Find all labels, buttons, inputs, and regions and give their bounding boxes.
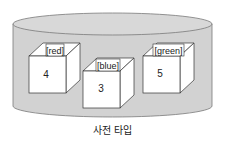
cube-key-label: [green] (154, 46, 182, 56)
dictionary-diagram: [red] 4 [blue] 3 [green] 5 (0, 0, 225, 141)
diagram-caption: 사전 타입 (0, 122, 225, 137)
cube-value: 4 (43, 69, 49, 80)
cube-red: [red] 4 (29, 43, 80, 93)
cube-value: 5 (157, 68, 163, 79)
cube-green: [green] 5 (143, 43, 194, 93)
cube-key-label: [blue] (97, 61, 119, 71)
cube-blue: [blue] 3 (83, 58, 134, 108)
cube-value: 3 (98, 83, 104, 94)
cube-key-label: [red] (46, 46, 64, 56)
